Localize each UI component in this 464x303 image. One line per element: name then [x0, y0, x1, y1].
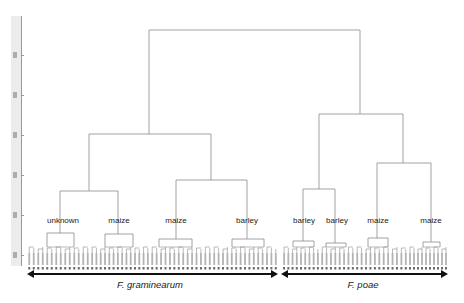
leaf-label: [235, 253, 237, 265]
leaf-label: [196, 253, 198, 265]
group-code-mark: [69, 267, 71, 270]
leaf-label: [126, 253, 128, 265]
group-code-mark: [262, 267, 264, 270]
leaf-label: [121, 253, 123, 265]
group-code-mark: [147, 267, 149, 270]
group-code-mark: [169, 267, 171, 270]
group-code-mark: [209, 267, 211, 270]
leaf-label: [343, 253, 345, 265]
group-code-mark: [334, 267, 336, 270]
leaf-label: [82, 253, 84, 265]
leaf-label: [417, 253, 419, 265]
group-code-mark: [100, 267, 102, 270]
leaf-label: [339, 253, 341, 265]
dendrogram-tree: [0, 0, 464, 303]
group-code-mark: [425, 267, 427, 270]
clade-label: unknown: [47, 217, 79, 225]
leaf-label: [425, 253, 427, 265]
group-code-mark: [300, 267, 302, 270]
leaf-label: [292, 253, 294, 265]
arrow-head-left-icon: [281, 270, 288, 278]
leaf-label: [78, 253, 80, 265]
leaf-label: [317, 253, 319, 265]
leaf-label: [42, 253, 44, 265]
leaf-label: [383, 253, 385, 265]
group-code-mark: [91, 267, 93, 270]
group-code-mark: [143, 267, 145, 270]
leaf-label: [271, 253, 273, 265]
arrow-head-left-icon: [27, 270, 34, 278]
leaf-label: [257, 253, 259, 265]
group-code-mark: [361, 267, 363, 270]
leaf-label: [108, 253, 110, 265]
group-code-mark: [213, 267, 215, 270]
leaf-label: [113, 253, 115, 265]
leaf-label: [304, 253, 306, 265]
group-code-mark: [64, 267, 66, 270]
leaf-label: [378, 253, 380, 265]
leaf-label: [165, 253, 167, 265]
group-code-mark: [244, 267, 246, 270]
clade-label: maize: [367, 217, 388, 225]
arrow-head-right-icon: [441, 270, 448, 278]
group-code-mark: [165, 267, 167, 270]
group-code-mark: [178, 267, 180, 270]
group-code-mark: [222, 267, 224, 270]
leaf-label: [134, 253, 136, 265]
group-code-mark: [37, 267, 39, 270]
species-label: F. graminearum: [117, 279, 183, 290]
leaf-label: [33, 253, 35, 265]
leaf-label: [218, 253, 220, 265]
group-code-mark: [409, 267, 411, 270]
group-code-mark: [191, 267, 193, 270]
species-range-arrow: [286, 273, 443, 275]
group-code-mark: [352, 267, 354, 270]
group-code-mark: [130, 267, 132, 270]
group-code-mark: [356, 267, 358, 270]
group-code-mark: [125, 267, 127, 270]
leaf-label: [55, 253, 57, 265]
leaf-label: [441, 253, 443, 265]
group-code-mark: [134, 267, 136, 270]
leaf-label: [156, 253, 158, 265]
group-code-mark: [42, 267, 44, 270]
leaf-label: [321, 253, 323, 265]
arrow-head-right-icon: [271, 270, 278, 278]
group-code-mark: [204, 267, 206, 270]
leaf-label: [356, 253, 358, 265]
leaf-label: [173, 253, 175, 265]
group-code-mark: [108, 267, 110, 270]
group-code-mark: [437, 267, 439, 270]
leaf-label: [330, 253, 332, 265]
leaf-label: [405, 253, 407, 265]
leaf-label: [437, 253, 439, 265]
group-code-mark: [87, 267, 89, 270]
leaf-label: [352, 253, 354, 265]
group-code-mark: [46, 267, 48, 270]
group-code-mark: [60, 267, 62, 270]
leaf-label: [227, 253, 229, 265]
group-code-mark: [330, 267, 332, 270]
leaf-label: [392, 253, 394, 265]
group-code-mark: [253, 267, 255, 270]
leaf-label: [138, 253, 140, 265]
group-code-mark: [378, 267, 380, 270]
leaf-label: [283, 253, 285, 265]
leaf-label: [445, 253, 447, 265]
group-code-mark: [369, 267, 371, 270]
group-code-mark: [95, 267, 97, 270]
leaf-label: [147, 253, 149, 265]
group-code-mark: [266, 267, 268, 270]
leaf-label: [370, 253, 372, 265]
group-code-mark: [117, 267, 119, 270]
leaf-label: [396, 253, 398, 265]
leaf-label: [87, 253, 89, 265]
leaf-label: [231, 253, 233, 265]
leaf-label: [169, 253, 171, 265]
leaf-label: [296, 253, 298, 265]
group-code-mark: [296, 267, 298, 270]
leaf-label: [374, 253, 376, 265]
group-code-mark: [104, 267, 106, 270]
group-code-mark: [240, 267, 242, 270]
leaf-label: [287, 253, 289, 265]
